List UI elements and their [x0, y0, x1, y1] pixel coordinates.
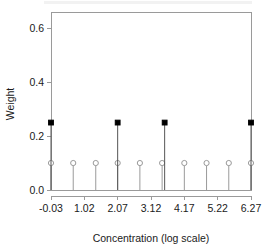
x-tick-label: 2.07	[107, 202, 128, 214]
plot-panel-border	[51, 12, 251, 190]
x-axis: -0.031.022.073.124.175.226.27	[39, 196, 261, 214]
series-filled-square-weights	[49, 120, 254, 190]
data-point-open-circle	[137, 160, 142, 165]
data-point-open-circle	[160, 160, 165, 165]
data-point-open-circle	[182, 160, 187, 165]
chart-figure: 0.00.20.40.6 -0.031.022.073.124.175.226.…	[0, 0, 276, 250]
y-axis-title: Weight	[4, 88, 16, 121]
y-tick-label: 0.6	[29, 22, 44, 34]
data-point-filled-square	[249, 120, 254, 125]
data-point-open-circle	[71, 160, 76, 165]
y-axis: 0.00.20.40.6	[29, 22, 51, 196]
x-tick-label: 1.02	[74, 202, 95, 214]
x-tick-label: -0.03	[39, 202, 63, 214]
series-open-circle-weights	[48, 160, 253, 190]
data-point-filled-square	[162, 120, 167, 125]
data-point-open-circle	[204, 160, 209, 165]
data-point-filled-square	[115, 120, 120, 125]
cut-off-title-remnant	[44, 1, 252, 4]
y-tick-label: 0.4	[29, 76, 44, 88]
x-tick-label: 4.17	[174, 202, 195, 214]
x-axis-title: Concentration (log scale)	[93, 232, 210, 244]
x-tick-label: 3.12	[141, 202, 162, 214]
x-tick-label: 6.27	[241, 202, 262, 214]
data-point-open-circle	[93, 160, 98, 165]
x-tick-label: 5.22	[207, 202, 228, 214]
data-point-open-circle	[226, 160, 231, 165]
y-tick-label: 0.0	[29, 184, 44, 196]
y-tick-label: 0.2	[29, 130, 44, 142]
stem-plot-svg: 0.00.20.40.6 -0.031.022.073.124.175.226.…	[0, 0, 276, 250]
data-point-filled-square	[49, 120, 54, 125]
